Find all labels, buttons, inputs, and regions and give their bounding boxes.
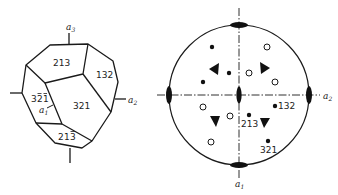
pole-filled-213 xyxy=(247,113,251,117)
svg-text:2: 2 xyxy=(37,94,43,104)
pole-label-132: 132 xyxy=(278,101,295,111)
face-label-2-1-3bar: 2 1 3 xyxy=(58,132,76,143)
pole-open xyxy=(264,44,270,50)
svg-text:3: 3 xyxy=(31,94,37,104)
pole-open xyxy=(246,70,252,76)
axis-label-a2-stereo: a2 xyxy=(323,91,332,102)
svg-text:1: 1 xyxy=(43,94,49,104)
threefold-axis-upper-right xyxy=(260,62,270,74)
twofold-axis-top xyxy=(230,22,248,28)
twofold-axis-left xyxy=(166,86,172,104)
crystal-polyhedron xyxy=(10,33,126,163)
face-label-213: 213 xyxy=(53,58,70,68)
twofold-axis-bottom xyxy=(230,162,248,168)
pole-open xyxy=(208,139,214,145)
svg-text:2: 2 xyxy=(58,132,64,142)
pole-open xyxy=(272,79,278,85)
pole-filled xyxy=(227,71,231,75)
axis-label-a1-stereo: a1 xyxy=(235,179,244,190)
figure-canvas: a3 a2 a1 213 132 321 3 2 1 2 1 3 xyxy=(0,0,338,195)
svg-text:3: 3 xyxy=(70,132,76,142)
svg-text:1: 1 xyxy=(64,132,70,142)
twofold-axis-right xyxy=(306,86,312,104)
axis-label-a1: a1 xyxy=(39,105,48,116)
pole-filled-321 xyxy=(266,139,270,143)
twofold-axis-center xyxy=(236,87,241,104)
pole-open xyxy=(200,104,206,110)
axis-a1-stub xyxy=(47,105,53,108)
pole-filled-132 xyxy=(273,104,277,108)
pole-filled xyxy=(201,80,205,84)
threefold-axis-lower-right xyxy=(260,118,270,128)
axis-label-a3: a3 xyxy=(66,22,75,33)
edge-bottom xyxy=(36,123,62,124)
pole-label-213: 213 xyxy=(241,119,258,129)
stereographic-projection: 132 213 321 a2 a1 xyxy=(157,8,332,190)
pole-label-321: 321 xyxy=(260,145,277,155)
pole-filled xyxy=(210,45,214,49)
face-label-3-2bar-1bar: 3 2 1 xyxy=(31,94,49,105)
threefold-axis-lower-left xyxy=(210,116,220,127)
pole-open xyxy=(227,113,233,119)
face-label-132: 132 xyxy=(96,70,113,80)
axis-label-a2: a2 xyxy=(128,95,137,106)
face-label-321: 321 xyxy=(73,101,90,111)
threefold-axis-upper-left xyxy=(209,63,219,75)
